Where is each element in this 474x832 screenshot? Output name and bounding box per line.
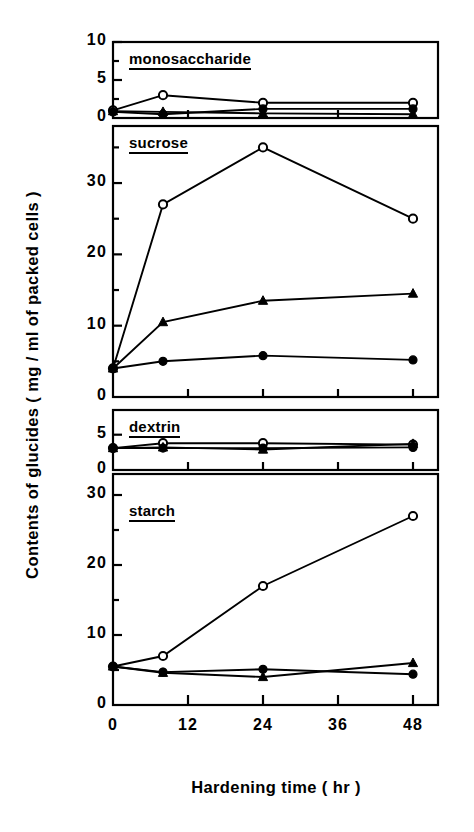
panel-title-monosaccharide: monosaccharide (129, 50, 251, 70)
data-point-starch-filled-triangle (408, 658, 417, 667)
panel-title-sucrose: sucrose (129, 134, 188, 154)
data-point-dextrin-filled-circle (409, 443, 417, 451)
data-point-monosaccharide-filled-circle (159, 110, 167, 118)
data-point-starch-open-circle (409, 512, 417, 520)
data-point-sucrose-open-circle (409, 215, 417, 223)
data-point-starch-filled-circle (409, 670, 417, 678)
panel-title-starch: starch (129, 502, 175, 522)
data-point-sucrose-filled-circle (109, 364, 117, 372)
figure-chart-glucides: Contents of glucides ( mg / ml of packed… (0, 0, 474, 832)
data-point-dextrin-filled-circle (259, 444, 267, 452)
data-point-sucrose-open-circle (259, 143, 267, 151)
series-line-starch-open-circle (113, 516, 413, 667)
data-point-dextrin-filled-circle (109, 444, 117, 452)
data-point-sucrose-filled-circle (259, 352, 267, 360)
data-point-sucrose-open-circle (159, 200, 167, 208)
data-point-monosaccharide-filled-circle (259, 105, 267, 113)
data-point-sucrose-filled-circle (409, 356, 417, 364)
data-point-dextrin-filled-circle (159, 444, 167, 452)
series-line-sucrose-open-circle (113, 147, 413, 368)
data-point-monosaccharide-filled-circle (409, 105, 417, 113)
data-point-monosaccharide-filled-circle (109, 108, 117, 116)
data-point-starch-open-circle (259, 582, 267, 590)
data-point-sucrose-filled-circle (159, 357, 167, 365)
panel-title-dextrin: dextrin (129, 418, 180, 438)
data-point-starch-filled-circle (159, 668, 167, 676)
data-point-starch-filled-circle (109, 663, 117, 671)
data-point-starch-filled-circle (259, 665, 267, 673)
data-point-starch-open-circle (159, 652, 167, 660)
data-point-monosaccharide-open-circle (159, 91, 167, 99)
